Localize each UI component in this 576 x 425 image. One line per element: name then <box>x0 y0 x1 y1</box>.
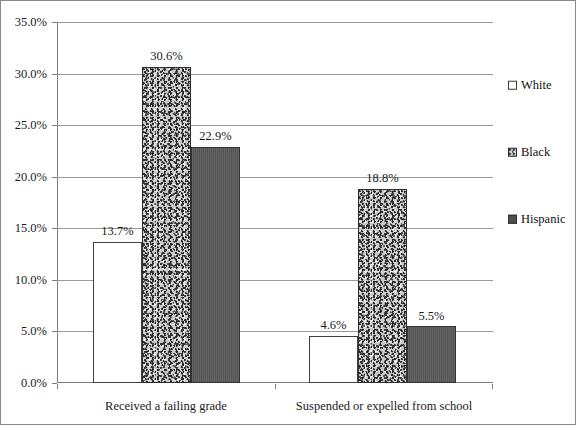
gridline <box>57 125 493 126</box>
y-axis-label: 35.0% <box>1 16 47 29</box>
y-axis-label: 20.0% <box>1 170 47 183</box>
gridline <box>57 22 493 23</box>
data-label-white-suspended-or-expelled: 4.6% <box>320 319 346 332</box>
x-axis: Received a failing grade Suspended or ex… <box>57 384 493 424</box>
gridline <box>57 177 493 178</box>
x-axis-category-label: Suspended or expelled from school <box>296 400 472 413</box>
x-axis-tick <box>275 384 276 389</box>
legend-item-hispanic[interactable]: Hispanic <box>508 213 565 226</box>
y-axis-label: 30.0% <box>1 67 47 80</box>
x-axis-tick <box>492 384 493 389</box>
legend: White Black Hispanic <box>506 1 576 425</box>
y-axis-label: 10.0% <box>1 274 47 287</box>
bar-hispanic-received-failing-grade[interactable] <box>191 147 240 383</box>
x-axis-tick <box>57 384 58 389</box>
x-axis-category-label: Received a failing grade <box>105 400 227 413</box>
data-label-black-received-failing-grade: 30.6% <box>150 50 182 63</box>
data-label-hispanic-received-failing-grade: 22.9% <box>199 130 231 143</box>
y-axis-label: 25.0% <box>1 119 47 132</box>
bar-black-received-failing-grade[interactable] <box>142 67 191 383</box>
data-label-black-suspended-or-expelled: 18.8% <box>366 172 398 185</box>
y-axis-label: 5.0% <box>1 325 47 338</box>
bar-black-suspended-or-expelled[interactable] <box>358 189 407 383</box>
bar-white-received-failing-grade[interactable] <box>93 242 142 383</box>
legend-swatch-icon <box>508 148 517 157</box>
legend-swatch-icon <box>508 215 517 224</box>
bar-chart: 35.0% 30.0% 25.0% 20.0% 15.0% 10.0% 5.0%… <box>0 0 576 425</box>
legend-item-white[interactable]: White <box>508 79 552 92</box>
data-label-hispanic-suspended-or-expelled: 5.5% <box>418 310 444 323</box>
y-axis-label: 15.0% <box>1 222 47 235</box>
legend-swatch-icon <box>508 81 517 90</box>
plot-area: 13.7% 30.6% 22.9% 4.6% 18.8% 5.5% <box>57 22 493 383</box>
legend-label: White <box>521 79 552 92</box>
legend-item-black[interactable]: Black <box>508 146 550 159</box>
y-axis-label: 0.0% <box>1 377 47 390</box>
gridline <box>57 74 493 75</box>
bar-white-suspended-or-expelled[interactable] <box>309 336 358 383</box>
legend-label: Hispanic <box>521 213 565 226</box>
legend-label: Black <box>521 146 550 159</box>
data-label-white-received-failing-grade: 13.7% <box>101 225 133 238</box>
bar-hispanic-suspended-or-expelled[interactable] <box>407 326 456 383</box>
